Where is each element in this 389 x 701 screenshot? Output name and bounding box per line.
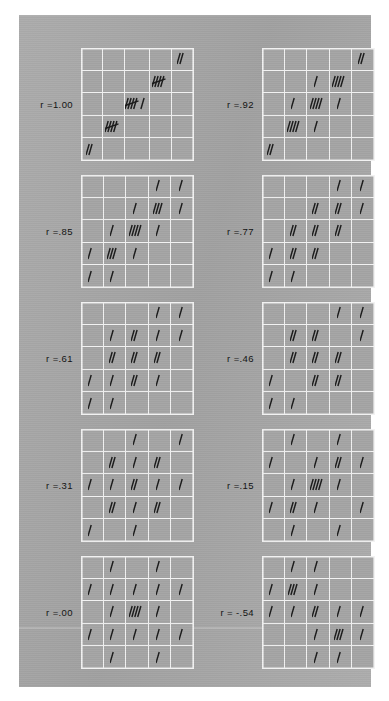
tally-marks (156, 560, 164, 573)
grid-cell (150, 116, 172, 139)
tally-marks (129, 605, 146, 618)
tally-marks (291, 478, 299, 491)
grid-cell (104, 601, 127, 624)
grid-cell (262, 175, 285, 198)
tally-marks (86, 143, 97, 156)
grid-cell (81, 48, 103, 71)
tally-marks (337, 433, 345, 446)
tally-marks (154, 351, 165, 364)
grid-cell (352, 474, 375, 497)
tally-marks (290, 224, 301, 237)
grid-cell (262, 243, 285, 266)
grid-cell (352, 302, 375, 325)
grid-cell (285, 370, 308, 393)
tally-marks (133, 456, 141, 469)
grid-cell (81, 302, 104, 325)
grid-cell (126, 265, 149, 288)
tally-marks (291, 270, 299, 283)
grid-cell (171, 624, 194, 647)
grid-cell (103, 48, 125, 71)
grid-cell (81, 116, 103, 139)
tally-marks (156, 374, 164, 387)
tally-marks (358, 52, 369, 65)
tally-marks (88, 478, 96, 491)
grid-cell (307, 579, 330, 602)
grid-cell (149, 370, 172, 393)
grid-cell (171, 556, 194, 579)
bivariate-frequency-grid (81, 429, 194, 542)
grid-cell (149, 302, 172, 325)
grid-cell (262, 71, 285, 94)
grid-cell (172, 93, 194, 116)
tally-marks (360, 605, 368, 618)
tally-marks (269, 374, 277, 387)
grid-cell (104, 392, 127, 415)
grid-cell (307, 116, 330, 139)
grid-cell (285, 93, 308, 116)
grid-cell (285, 116, 308, 139)
grid-cell (149, 198, 172, 221)
grid-cell (307, 198, 330, 221)
grid-cell (149, 519, 172, 542)
bivariate-frequency-grid (262, 175, 375, 288)
grid-cell (81, 601, 104, 624)
grid-cell (149, 497, 172, 520)
figure-page: r =1.00r =.92r =.85r =.77r =.61r =.46r =… (0, 0, 389, 701)
grid-cell (262, 198, 285, 221)
grid-cell (171, 265, 194, 288)
grid-cell (330, 347, 353, 370)
tally-marks (110, 560, 118, 573)
correlation-panel-grid: r =1.00r =.92r =.85r =.77r =.61r =.46r =… (19, 15, 371, 687)
grid-cell (172, 116, 194, 139)
grid-cell (330, 198, 353, 221)
grid-cell (81, 220, 104, 243)
tally-marks (360, 329, 368, 342)
tally-marks (360, 456, 368, 469)
grid-cell (352, 519, 375, 542)
grid-cell (81, 175, 104, 198)
grid-cell (125, 116, 150, 139)
grid-cell (352, 601, 375, 624)
grid-cell (149, 579, 172, 602)
grid-cell (352, 347, 375, 370)
grid-cell (307, 138, 330, 161)
grid-cell (149, 646, 172, 669)
tally-marks (88, 247, 96, 260)
grid-cell (285, 220, 308, 243)
tally-marks (88, 524, 96, 537)
grid-cell (330, 93, 353, 116)
grid-cell (150, 93, 172, 116)
grid-cell (81, 452, 104, 475)
tally-marks (290, 329, 301, 342)
grid-cell (81, 93, 103, 116)
grid-cell (307, 519, 330, 542)
grid-cell (125, 71, 150, 94)
grid-cell (307, 48, 330, 71)
grid-cell (149, 243, 172, 266)
grid-cell (285, 497, 308, 520)
grid-cell (330, 138, 353, 161)
tally-marks (360, 179, 368, 192)
grid-cell (262, 370, 285, 393)
tally-marks (337, 651, 345, 664)
grid-cell (81, 243, 104, 266)
grid-cell (104, 497, 127, 520)
grid-cell (262, 474, 285, 497)
grid-cell (149, 624, 172, 647)
tally-marks (179, 628, 187, 641)
tally-marks (335, 374, 346, 387)
grid-cell (104, 265, 127, 288)
tally-marks (110, 478, 118, 491)
tally-marks (312, 605, 323, 618)
tally-marks (129, 224, 146, 237)
bivariate-frequency-grid (262, 48, 375, 161)
tally-marks (291, 97, 299, 110)
tally-marks (156, 179, 164, 192)
grid-cell (352, 175, 375, 198)
tally-marks (269, 501, 277, 514)
grid-cell (104, 243, 127, 266)
grid-cell (81, 556, 104, 579)
tally-marks (287, 120, 304, 133)
grid-cell (352, 392, 375, 415)
grid-cell (171, 601, 194, 624)
